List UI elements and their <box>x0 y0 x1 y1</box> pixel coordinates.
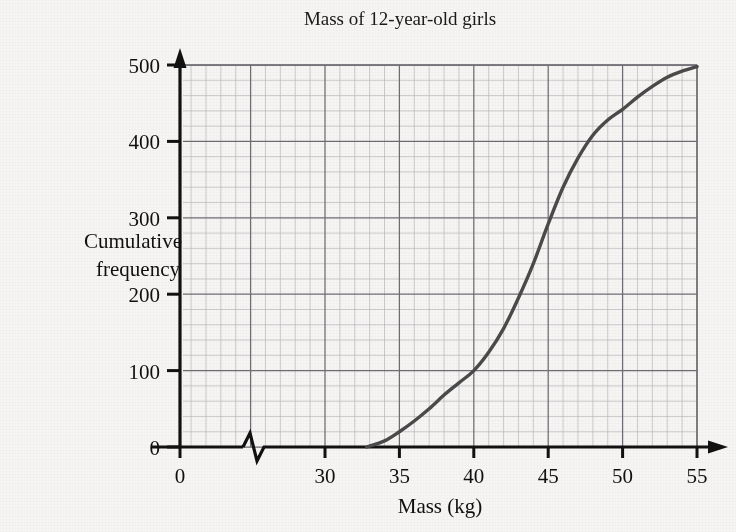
y-axis-title-line2: frequency <box>96 257 180 281</box>
x-axis-tick-label: 55 <box>687 464 708 488</box>
y-axis-tick-label: 300 <box>129 207 161 231</box>
x-axis-title: Mass (kg) <box>398 494 483 518</box>
x-axis-tick-label: 0 <box>175 464 186 488</box>
x-axis-tick-label: 50 <box>612 464 633 488</box>
y-axis-tick-label: 500 <box>129 54 161 78</box>
x-axis-tick-label: 35 <box>389 464 410 488</box>
y-axis-tick-label: 200 <box>129 283 161 307</box>
y-axis-tick-label: 400 <box>129 130 161 154</box>
chart-figure: Mass of 12-year-old girls Mass (kg) Cumu… <box>0 0 736 532</box>
x-axis-tick-label: 40 <box>463 464 484 488</box>
cumulative-frequency-graph: Mass of 12-year-old girls Mass (kg) Cumu… <box>0 0 736 532</box>
y-axis-tick-label: 0 <box>150 436 161 460</box>
y-axis-tick-label: 100 <box>129 360 161 384</box>
y-axis-title-line1: Cumulative <box>84 229 182 253</box>
x-axis-tick-label: 45 <box>538 464 559 488</box>
chart-title: Mass of 12-year-old girls <box>304 8 496 29</box>
x-axis-tick-label: 30 <box>315 464 336 488</box>
